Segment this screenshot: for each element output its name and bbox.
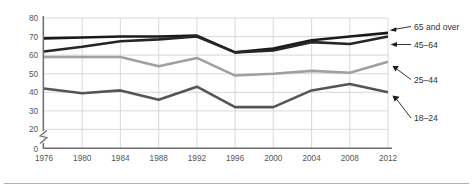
y-tick-label-60: 60 (29, 51, 39, 60)
annotation-45-64: 45–64 (391, 40, 439, 50)
x-tick-label-1976: 1976 (35, 154, 54, 163)
y-tick-label-30: 30 (29, 107, 39, 116)
chart-figure: 80 70 60 50 40 30 20 0 1976 1980 1984 19… (0, 0, 473, 191)
annotation-25-44: 25–44 (393, 66, 439, 85)
x-tick-label-1984: 1984 (111, 154, 130, 163)
leader-arrowhead-18-24 (393, 96, 400, 102)
y-tick-labels: 80 70 60 50 40 30 20 0 (29, 14, 39, 154)
x-tick-label-1988: 1988 (150, 154, 169, 163)
leader-line-25-44 (396, 69, 411, 80)
x-tick-labels: 1976 1980 1984 1988 1992 1996 2000 2004 … (35, 154, 398, 163)
x-tick-label-1996: 1996 (226, 154, 245, 163)
y-tick-label-40: 40 (29, 88, 39, 97)
annotation-65-and-over: 65 and over (390, 22, 460, 32)
series-annotations: 65 and over 45–64 25–44 18–24 (390, 22, 460, 123)
leader-line-18-24 (396, 99, 411, 119)
annotation-label-45-64: 45–64 (414, 40, 438, 50)
line-chart: 80 70 60 50 40 30 20 0 1976 1980 1984 19… (0, 0, 473, 191)
y-tick-label-0: 0 (33, 145, 38, 154)
leader-arrowhead-25-44 (393, 66, 399, 72)
y-tick-label-80: 80 (29, 14, 39, 23)
y-tick-label-20: 20 (29, 125, 39, 134)
y-tick-label-70: 70 (29, 33, 39, 42)
y-tick-label-50: 50 (29, 70, 39, 79)
x-tick-label-2000: 2000 (264, 154, 283, 163)
x-tick-label-2004: 2004 (302, 154, 321, 163)
leader-arrowhead-65-and-over (390, 27, 397, 31)
x-tick-label-1992: 1992 (188, 154, 207, 163)
x-tick-label-2012: 2012 (379, 154, 398, 163)
annotation-18-24: 18–24 (393, 96, 439, 124)
annotation-label-25-44: 25–44 (414, 75, 438, 85)
x-tick-label-2008: 2008 (341, 154, 360, 163)
leader-arrowhead-45-64 (391, 42, 398, 47)
x-tick-label-1980: 1980 (73, 154, 92, 163)
annotation-label-65-and-over: 65 and over (414, 22, 460, 32)
annotation-label-18-24: 18–24 (414, 113, 438, 123)
